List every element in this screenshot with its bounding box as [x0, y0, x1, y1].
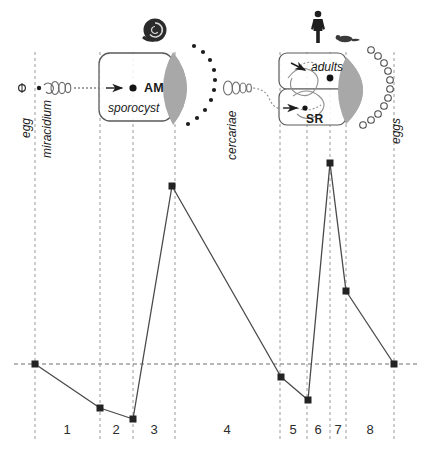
snail-shell-icon [143, 19, 167, 42]
data-point-marker [130, 416, 137, 423]
segment-label-6: 6 [308, 422, 328, 437]
data-point-marker [169, 183, 176, 190]
figure-caption-clipped [0, 452, 429, 466]
am-dot-icon [129, 84, 136, 91]
segment-label-2: 2 [106, 422, 126, 437]
eggs-chain-icon [360, 47, 394, 129]
stage-label-eggs: eggs [389, 118, 403, 144]
data-point-marker [278, 374, 285, 381]
segment-label-4: 4 [217, 422, 237, 437]
sr-dot-icon [302, 105, 307, 110]
segment-label-3: 3 [144, 422, 164, 437]
data-point-marker [391, 361, 398, 368]
miracidium-spiral-icon [44, 82, 71, 95]
human-host-icon [311, 11, 325, 43]
rodent-host-icon [336, 35, 360, 42]
segment-label-5: 5 [283, 422, 303, 437]
stage-label-miracidium: miracidium [40, 100, 54, 158]
stage-label-sporocyst: sporocyst [108, 101, 159, 115]
stage-label-adults: adults [311, 60, 343, 74]
data-point-marker [343, 288, 350, 295]
adults-dot-icon [327, 75, 334, 82]
data-point-marker [32, 361, 39, 368]
stage-label-cercariae: cercariae [225, 111, 239, 160]
data-point-marker [327, 160, 334, 167]
stage-label-am: AM [144, 81, 164, 95]
chart-data-markers [32, 160, 398, 423]
segment-label-1: 1 [57, 422, 77, 437]
egg-circle-icon [19, 83, 26, 93]
figure-root: egg miracidium cercariae eggs AM sporocy… [0, 0, 429, 466]
miracidium-dot-icon [37, 86, 41, 90]
cercariae-dot-arc [186, 44, 217, 126]
chart-line-series [35, 163, 394, 419]
data-point-marker [305, 397, 312, 404]
data-point-marker [97, 405, 104, 412]
segment-label-7: 7 [328, 422, 348, 437]
stage-label-egg: egg [19, 118, 33, 138]
stage-label-sr: SR [306, 112, 324, 126]
cercaria-spiral-icon [224, 81, 252, 95]
figure-canvas [0, 0, 429, 466]
segment-label-8: 8 [360, 422, 380, 437]
